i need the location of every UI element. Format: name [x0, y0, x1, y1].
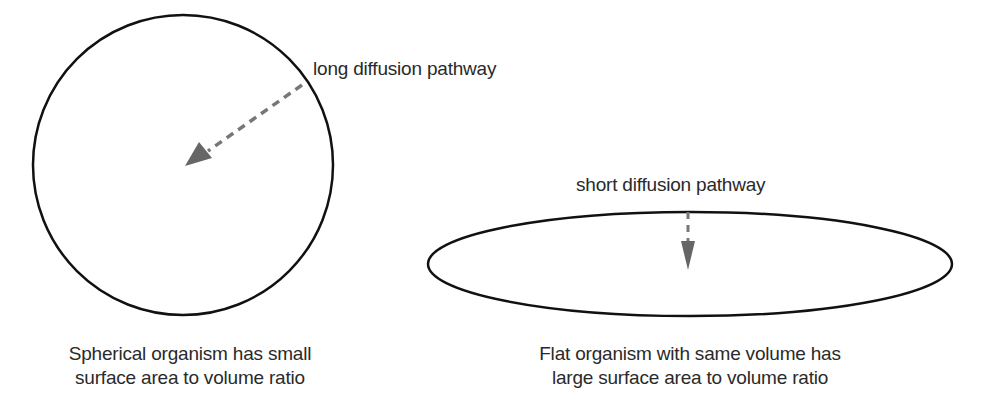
flat-caption-line1: Flat organism with same volume has: [500, 342, 880, 366]
sphere-caption-line1: Spherical organism has small: [30, 342, 350, 366]
sphere-caption-line2: surface area to volume ratio: [30, 366, 350, 390]
spherical-organism-shape: [33, 15, 333, 315]
short-diffusion-arrow: [681, 212, 695, 270]
flat-organism-shape: [428, 212, 952, 316]
sphere-caption: Spherical organism has small surface are…: [30, 342, 350, 390]
flat-caption: Flat organism with same volume has large…: [500, 342, 880, 390]
long-diffusion-label: long diffusion pathway: [313, 58, 496, 80]
long-diffusion-arrow: [185, 85, 302, 166]
short-diffusion-label: short diffusion pathway: [576, 174, 765, 196]
flat-caption-line2: large surface area to volume ratio: [500, 366, 880, 390]
